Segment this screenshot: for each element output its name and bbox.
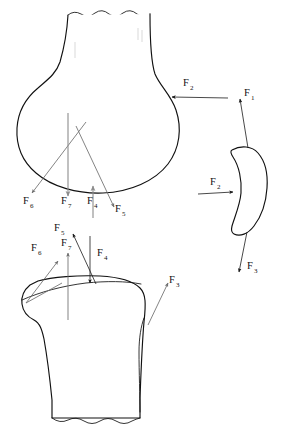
label-patella-F2: F 2 xyxy=(210,176,221,191)
label-tibia-F7: F 7 xyxy=(61,237,72,252)
force-diagram-canvas: F 2 F 6 F 7 F 4 F 5 F 6 F 5 F xyxy=(0,0,288,436)
svg-text:F: F xyxy=(169,274,175,285)
label-tibia-F4: F 4 xyxy=(97,247,108,262)
patella-force-F2-arrow xyxy=(198,192,233,194)
svg-text:F: F xyxy=(244,87,250,98)
svg-text:3: 3 xyxy=(176,281,180,289)
svg-text:F: F xyxy=(183,77,189,88)
femur-bone xyxy=(17,11,179,193)
label-tibia-F5: F 5 xyxy=(54,222,65,237)
svg-text:F: F xyxy=(115,203,121,214)
patella-force-vectors xyxy=(198,99,248,272)
svg-text:7: 7 xyxy=(68,244,72,252)
svg-text:7: 7 xyxy=(68,202,72,210)
svg-text:F: F xyxy=(61,237,67,248)
svg-text:2: 2 xyxy=(217,183,221,191)
svg-text:1: 1 xyxy=(251,94,255,102)
femur-outline xyxy=(17,14,179,193)
label-tibia-F6: F 6 xyxy=(31,242,42,257)
svg-text:F: F xyxy=(87,195,93,206)
patella-outline xyxy=(231,147,267,235)
svg-text:F: F xyxy=(61,195,67,206)
patella-force-F1-arrow xyxy=(240,99,248,148)
femur-force-F2-arrow xyxy=(172,97,228,98)
svg-text:3: 3 xyxy=(254,267,258,275)
svg-text:F: F xyxy=(54,222,60,233)
svg-text:2: 2 xyxy=(190,84,194,92)
svg-text:5: 5 xyxy=(61,229,65,237)
label-femur-F5: F 5 xyxy=(115,203,126,218)
tibia-force-F3-arrow xyxy=(148,283,168,325)
svg-text:F: F xyxy=(97,247,103,258)
label-femur-F6: F 6 xyxy=(23,195,34,210)
tibia-bone xyxy=(22,276,145,424)
label-patella-F1: F 1 xyxy=(244,87,255,102)
svg-text:5: 5 xyxy=(122,210,126,218)
label-femur-F7: F 7 xyxy=(61,195,72,210)
svg-text:6: 6 xyxy=(30,202,34,210)
svg-text:4: 4 xyxy=(104,254,108,262)
svg-text:F: F xyxy=(31,242,37,253)
svg-text:F: F xyxy=(210,176,216,187)
svg-text:F: F xyxy=(23,195,29,206)
label-tibia-F3: F 3 xyxy=(169,274,180,289)
patella-bone xyxy=(231,147,267,235)
label-femur-F2: F 2 xyxy=(183,77,194,92)
svg-text:F: F xyxy=(247,260,253,271)
svg-text:4: 4 xyxy=(94,202,98,210)
tibia-outline xyxy=(22,276,145,418)
label-patella-F3: F 3 xyxy=(247,260,258,275)
svg-text:6: 6 xyxy=(38,249,42,257)
patella-force-F3-arrow xyxy=(239,232,247,272)
tibia-cut-edge xyxy=(52,418,140,424)
